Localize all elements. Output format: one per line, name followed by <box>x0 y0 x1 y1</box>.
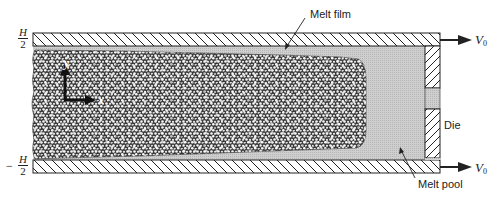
fraction-denominator: 2 <box>18 166 28 177</box>
bottom-plate <box>33 160 440 173</box>
bottom-coordinate-label: H 2 <box>18 154 28 177</box>
solid-bed <box>32 50 366 159</box>
velocity-label-top: V0 <box>475 32 487 48</box>
axis-x-label: x <box>98 93 104 108</box>
bottom-coordinate-sign: − <box>6 159 13 174</box>
melt-film-label: Melt film <box>310 8 351 20</box>
die-label: Die <box>444 119 461 131</box>
top-plate <box>33 33 440 46</box>
melt-pool-label: Melt pool <box>418 178 463 190</box>
fraction-denominator: 2 <box>18 39 28 50</box>
velocity-subscript: 0 <box>483 39 487 48</box>
velocity-label-bottom: V0 <box>475 160 487 176</box>
velocity-arrow-top <box>440 35 472 45</box>
top-coordinate-label: H 2 <box>18 27 28 50</box>
velocity-arrow-bottom <box>440 162 472 172</box>
die <box>425 46 440 160</box>
axis-y-label: y <box>64 56 69 71</box>
velocity-symbol: V <box>475 32 483 47</box>
velocity-symbol: V <box>475 160 483 175</box>
velocity-subscript: 0 <box>483 167 487 176</box>
melting-diagram <box>0 0 499 197</box>
